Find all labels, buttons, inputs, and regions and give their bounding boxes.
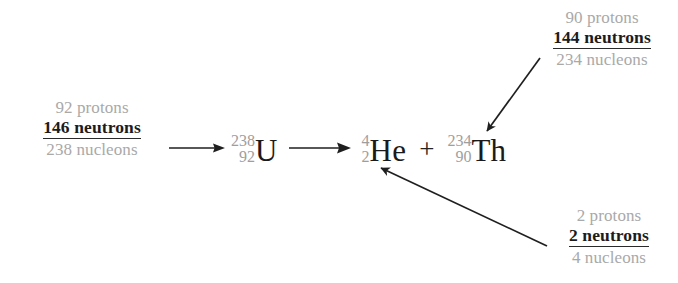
plus-operator: + — [419, 134, 434, 165]
helium-mass-charge: 4 2 — [362, 133, 370, 166]
helium-neutrons-row: 2 neutrons — [546, 226, 672, 247]
helium-nucleons-label: 4 nucleons — [546, 249, 672, 267]
uranium-nucleons-label: 238 nucleons — [26, 141, 158, 159]
helium-atomic-number: 2 — [362, 149, 370, 165]
helium-symbol: He — [370, 135, 407, 166]
nuclear-decay-diagram: 92 protons 146 neutrons 238 nucleons 90 … — [0, 0, 678, 283]
helium-neutrons-label: 2 neutrons — [569, 226, 649, 247]
uranium-atomic-number: 92 — [239, 149, 255, 165]
arrow-helium-to-symbol — [381, 168, 547, 246]
thorium-atomic-number: 90 — [455, 149, 471, 165]
decay-equation: 238 92 U 4 2 He + 234 90 Th — [163, 124, 506, 176]
annotation-uranium: 92 protons 146 neutrons 238 nucleons — [26, 99, 158, 160]
uranium-symbol: U — [255, 135, 278, 166]
uranium-mass-number: 238 — [231, 133, 255, 149]
thorium-neutrons-row: 144 neutrons — [532, 28, 672, 49]
uranium-protons-label: 92 protons — [26, 99, 158, 117]
annotation-thorium: 90 protons 144 neutrons 234 nucleons — [532, 9, 672, 70]
thorium-nucleons-label: 234 nucleons — [532, 51, 672, 69]
uranium-neutrons-row: 146 neutrons — [26, 118, 158, 139]
uranium-mass-charge: 238 92 — [231, 133, 255, 166]
helium-mass-number: 4 — [362, 133, 370, 149]
nuclide-uranium-238: 238 92 U — [231, 134, 278, 167]
pointer-arrow-to-uranium — [169, 138, 225, 162]
reaction-arrow — [289, 138, 351, 162]
uranium-neutrons-label: 146 neutrons — [43, 118, 141, 139]
annotation-helium: 2 protons 2 neutrons 4 nucleons — [546, 207, 672, 268]
thorium-neutrons-label: 144 neutrons — [553, 28, 651, 49]
thorium-symbol: Th — [471, 135, 506, 166]
thorium-mass-charge: 234 90 — [447, 133, 471, 166]
nuclide-helium-4: 4 2 He — [362, 134, 407, 167]
thorium-mass-number: 234 — [447, 133, 471, 149]
helium-protons-label: 2 protons — [546, 207, 672, 225]
thorium-protons-label: 90 protons — [532, 9, 672, 27]
nuclide-thorium-234: 234 90 Th — [447, 134, 506, 167]
